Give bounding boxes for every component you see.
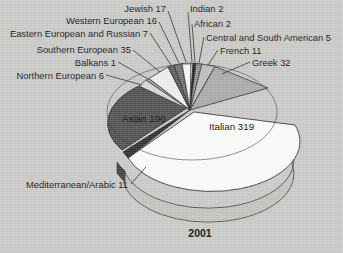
slice-label-italian: Italian 319 bbox=[209, 121, 254, 132]
slice-label-eastern-european-and-russian: Eastern European and Russian 7 bbox=[10, 28, 148, 39]
pie-chart-figure: Jewish 17 Indian 2 African 2 Western Eur… bbox=[0, 0, 343, 253]
slice-label-western-european: Western European 16 bbox=[66, 15, 157, 26]
slice-label-mediterranean-arabic: Mediterranean/Arabic 11 bbox=[26, 179, 128, 190]
slice-label-southern-european: Southern European 35 bbox=[37, 44, 131, 55]
slice-label-central-and-south-american: Central and South American 5 bbox=[206, 32, 331, 43]
slice-label-greek: Greek 32 bbox=[252, 57, 291, 68]
slice-label-northern-european: Northern European 6 bbox=[16, 70, 104, 81]
slice-label-balkans: Balkans 1 bbox=[75, 57, 116, 68]
pie-chart-svg: Jewish 17 Indian 2 African 2 Western Eur… bbox=[0, 0, 343, 253]
slice-label-african: African 2 bbox=[194, 18, 231, 29]
slice-label-jewish: Jewish 17 bbox=[124, 3, 166, 14]
slice-label-french: French 11 bbox=[220, 45, 262, 56]
slice-label-indian: Indian 2 bbox=[190, 3, 223, 14]
chart-title: 2001 bbox=[188, 227, 212, 239]
slice-label-asian: Asian 100 bbox=[122, 113, 166, 124]
